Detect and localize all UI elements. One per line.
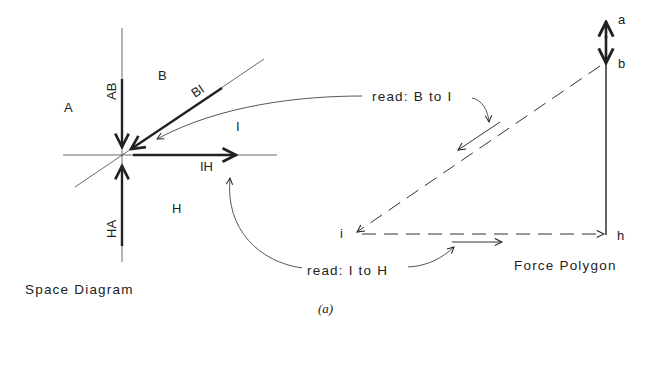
point-label-h: h (617, 228, 624, 243)
figure-caption: (a) (318, 301, 333, 316)
member-label-ih: IH (200, 159, 213, 174)
callouts: read: B to I read: I to H (157, 89, 489, 278)
space-diagram-title: Space Diagram (25, 282, 134, 297)
callout-read-i-to-h: read: I to H (307, 263, 388, 278)
force-polygon-title: Force Polygon (514, 258, 617, 273)
region-label-i: I (236, 119, 240, 134)
point-label-b: b (618, 56, 625, 71)
callout-i-to-h-hook (408, 247, 454, 267)
region-label-h: H (172, 201, 181, 216)
member-label-ha: HA (104, 220, 119, 238)
point-label-i: i (340, 226, 343, 241)
force-polygon: a b i h Force Polygon (340, 12, 626, 273)
member-bi-arrow (131, 88, 222, 149)
member-label-bi: BI (188, 81, 207, 100)
callout-i-to-h-curve (230, 178, 302, 268)
callout-b-to-i-curve (157, 96, 362, 139)
direction-b-to-i-arrow (458, 122, 500, 150)
callout-b-to-i-hook (472, 98, 489, 122)
member-label-ab: AB (104, 83, 119, 100)
point-label-a: a (618, 12, 626, 27)
space-diagram: A B I H AB BI IH HA Space Diagram (25, 28, 277, 297)
callout-read-b-to-i: read: B to I (372, 89, 452, 104)
region-label-a: A (64, 100, 73, 115)
force-diagram-figure: A B I H AB BI IH HA Space Diagram read: … (0, 0, 660, 366)
region-label-b: B (158, 68, 167, 83)
